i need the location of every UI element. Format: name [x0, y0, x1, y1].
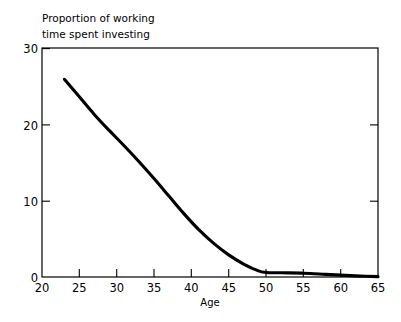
x-tick-label-50: 50 [259, 281, 274, 295]
x-tick-label-65: 65 [371, 281, 386, 295]
y-axis-title-line2: time spent investing [42, 28, 150, 40]
y-tick-label-30: 30 [23, 42, 38, 56]
x-tick-label-55: 55 [296, 281, 311, 295]
line-chart: Proportion of working time spent investi… [0, 0, 401, 322]
chart-figure: Proportion of working time spent investi… [0, 0, 401, 322]
y-axis-title-line1: Proportion of working [42, 12, 155, 24]
x-tick-label-25: 25 [72, 281, 87, 295]
x-tick-label-20: 20 [35, 281, 50, 295]
x-tick-label-35: 35 [147, 281, 162, 295]
y-tick-label-20: 20 [23, 119, 38, 133]
x-tick-label-30: 30 [109, 281, 124, 295]
x-tick-label-45: 45 [221, 281, 236, 295]
x-axis-label: Age [200, 297, 219, 308]
x-tick-label-60: 60 [333, 281, 348, 295]
y-tick-label-10: 10 [23, 195, 38, 209]
x-tick-label-40: 40 [184, 281, 199, 295]
